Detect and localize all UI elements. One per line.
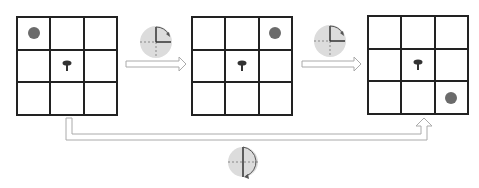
rotate-90-cw-icon	[314, 25, 346, 57]
rotate-90-cw-icon	[140, 26, 172, 58]
arrow-right	[126, 57, 186, 71]
arrow-bypass	[66, 118, 432, 140]
rotate-180-icon	[228, 147, 258, 179]
arrow-right	[302, 57, 361, 71]
connectors-layer	[0, 0, 479, 188]
